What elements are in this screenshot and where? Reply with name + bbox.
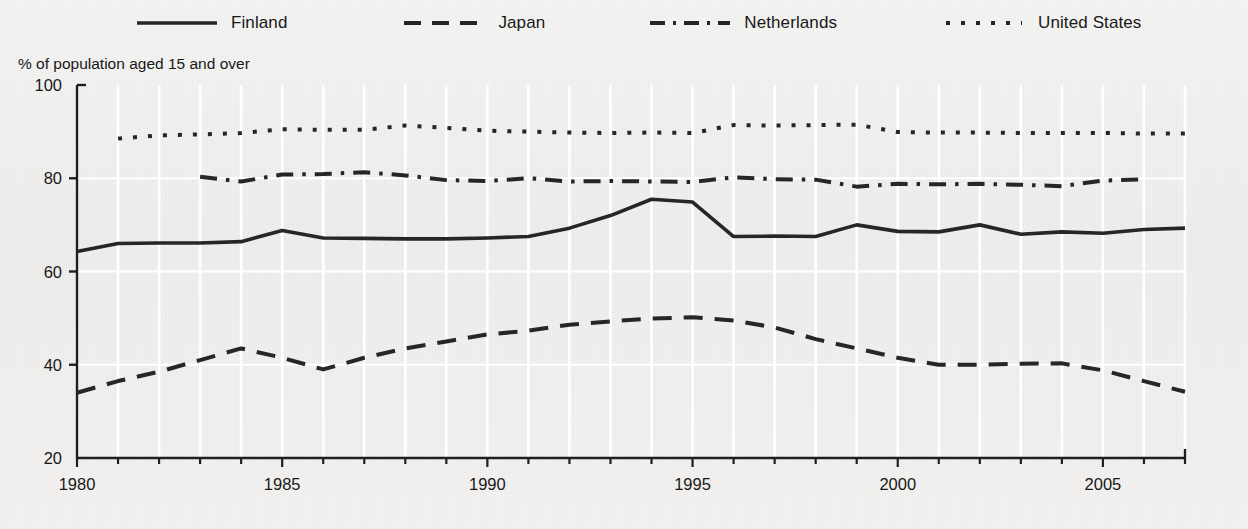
y-tick-label: 40 [44, 356, 62, 374]
x-tick-label: 2000 [879, 475, 916, 493]
series-line-netherlands [200, 172, 1144, 186]
x-axis-tick-labels: 198019851990199520002005 [59, 475, 1122, 493]
series-line-finland [77, 199, 1185, 251]
x-axis-ticks [77, 458, 1185, 467]
y-tick-label: 60 [44, 263, 62, 281]
y-axis-tick-labels: 10080604020 [34, 76, 62, 467]
y-tick-label: 20 [44, 449, 62, 467]
series-line-japan [77, 317, 1185, 393]
x-tick-label: 1980 [59, 475, 96, 493]
chart-svg: 10080604020 198019851990199520002005 [0, 0, 1248, 529]
x-tick-label: 1990 [469, 475, 506, 493]
x-tick-label: 1985 [264, 475, 301, 493]
chart-plot-area: 10080604020 198019851990199520002005 [0, 0, 1248, 529]
y-tick-label: 80 [44, 169, 62, 187]
data-series [77, 125, 1185, 393]
x-tick-label: 2005 [1085, 475, 1122, 493]
x-tick-label: 1995 [674, 475, 711, 493]
y-tick-label: 100 [34, 76, 62, 94]
